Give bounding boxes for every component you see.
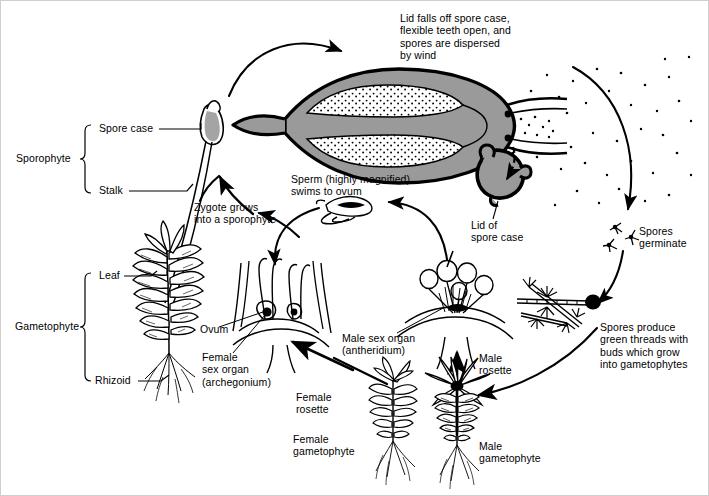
rhizoid-leader: [138, 375, 169, 381]
label-male-gametophyte: Male gametophyte: [479, 440, 541, 465]
label-sperm: Sperm (highly magnified) swims to ovum: [291, 173, 410, 198]
label-female-rosette: Female rosette: [296, 391, 332, 416]
diagram-artwork: [1, 1, 709, 496]
label-female-gametophyte: Female gametophyte: [293, 433, 355, 458]
spore-case-leader: [159, 123, 201, 129]
label-male-sex-organ: Male sex organ (antheridium): [342, 332, 415, 357]
label-sporophyte: Sporophyte: [16, 152, 71, 164]
label-gametophyte: Gametophyte: [15, 320, 79, 332]
label-female-sex-organ: Female sex organ (archegonium): [202, 351, 271, 388]
dispersed-spore-cloud: [506, 56, 692, 206]
spore-case-lid: [477, 145, 531, 219]
label-rhizoid: Rhizoid: [95, 374, 131, 386]
female-gametophyte-plant: [369, 357, 417, 485]
sperm-illustration: [316, 197, 371, 224]
label-leaf: Leaf: [99, 269, 120, 281]
gametophyte-bracket: [80, 273, 91, 381]
label-lid-falls-off: Lid falls off spore case, flexible teeth…: [400, 12, 511, 62]
protonema: [517, 277, 601, 333]
label-stalk: Stalk: [99, 184, 123, 196]
germinating-spores: [603, 223, 639, 252]
label-lid-of-spore-case: Lid of spore case: [471, 219, 523, 244]
spores-at-mouth: [520, 116, 555, 137]
stalk-leader: [129, 184, 193, 191]
label-spores-germinate: Spores germinate: [639, 225, 687, 250]
label-zygote-grows: Zygote grows into a sporophyte: [194, 201, 276, 226]
sporophyte-bracket: [80, 125, 91, 193]
label-male-rosette: Male rosette: [479, 352, 512, 377]
arrow-antheridium-to-sperm: [389, 202, 448, 269]
arrow-spores-to-protonema: [598, 251, 623, 303]
label-ovum: Ovum: [200, 323, 228, 335]
label-spores-produce-threads: Spores produce green threads with buds w…: [600, 321, 688, 371]
label-spore-case: Spore case: [99, 122, 153, 134]
arrow-capsule-to-spores: [573, 67, 631, 209]
moss-life-cycle-diagram: Lid falls off spore case, flexible teeth…: [0, 0, 709, 496]
